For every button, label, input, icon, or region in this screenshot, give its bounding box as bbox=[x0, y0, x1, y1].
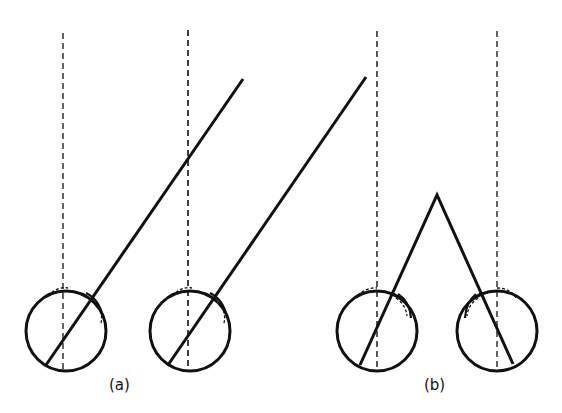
eye-a-left bbox=[26, 79, 243, 371]
eye-a-right bbox=[150, 77, 366, 371]
convergence-lines bbox=[360, 195, 513, 365]
panel-label-a: (a) bbox=[109, 376, 130, 394]
panel-label-b: (b) bbox=[424, 376, 445, 394]
diagram-canvas bbox=[0, 0, 562, 413]
